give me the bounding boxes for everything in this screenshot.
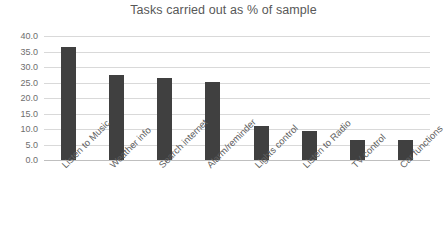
- gridline: [44, 114, 430, 115]
- y-axis-tick-label: 30.0: [0, 63, 38, 72]
- y-axis-tick-label: 40.0: [0, 32, 38, 41]
- x-axis: Listen to MusicWeather infoSearch intern…: [0, 161, 447, 231]
- gridline: [44, 36, 430, 37]
- y-axis-tick-label: 35.0: [0, 48, 38, 57]
- bar-chart: Tasks carried out as % of sample 40.035.…: [0, 0, 447, 231]
- gridline: [44, 52, 430, 53]
- gridline: [44, 67, 430, 68]
- y-axis-tick-label: 10.0: [0, 125, 38, 134]
- gridline: [44, 98, 430, 99]
- chart-title: Tasks carried out as % of sample: [0, 3, 447, 17]
- y-axis-tick-label: 15.0: [0, 110, 38, 119]
- y-axis-tick-label: 25.0: [0, 79, 38, 88]
- y-axis-tick-label: 5.0: [0, 141, 38, 150]
- gridline: [44, 83, 430, 84]
- bar[interactable]: [61, 47, 76, 160]
- y-axis-tick-label: 20.0: [0, 94, 38, 103]
